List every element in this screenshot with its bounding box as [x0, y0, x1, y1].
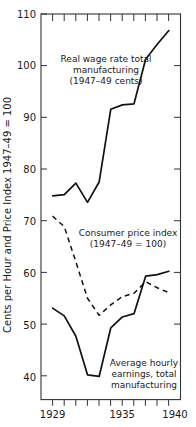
- y-tick-label-70: 70: [23, 216, 36, 227]
- chart-figure: Cents per Hour and Price Index 1947–49 =…: [0, 0, 196, 427]
- y-tick-label-110: 110: [17, 9, 36, 20]
- y-tick-label-60: 60: [23, 268, 36, 279]
- y-axis-title: Cents per Hour and Price Index 1947–49 =…: [2, 97, 13, 333]
- earnings-annotation-line-1: Average hourly: [110, 358, 179, 368]
- y-tick-label-40: 40: [23, 372, 36, 383]
- real-wage-annotation-line-2: manufacturing: [73, 65, 139, 75]
- y-tick-label-80: 80: [23, 164, 36, 175]
- cpi-annotation-line-1: Consumer price index: [79, 228, 178, 238]
- real-wage-annotation: Real wage rate total manufacturing (1947…: [61, 54, 152, 86]
- earnings-annotation-line-2: earnings, total: [111, 369, 176, 379]
- real-wage-annotation-line-1: Real wage rate total: [61, 54, 152, 64]
- y-tick-label-90: 90: [23, 112, 36, 123]
- x-tick-label-1940: 1940: [162, 409, 187, 420]
- cpi-annotation: Consumer price index (1947–49 = 100): [79, 228, 178, 249]
- x-tick-label-1935: 1935: [109, 409, 134, 420]
- x-tick-labels: 1929 1935 1940: [40, 409, 188, 420]
- x-tick-label-1929: 1929: [40, 409, 65, 420]
- cpi-annotation-line-2: (1947–49 = 100): [90, 239, 166, 249]
- chart-svg: Cents per Hour and Price Index 1947–49 =…: [0, 0, 196, 427]
- earnings-annotation-line-3: manufacturing: [111, 380, 177, 390]
- y-tick-label-50: 50: [23, 320, 36, 331]
- earnings-annotation: Average hourly earnings, total manufactu…: [110, 358, 179, 390]
- real-wage-annotation-line-3: (1947–49 cents): [69, 76, 142, 86]
- y-tick-label-100: 100: [17, 60, 36, 71]
